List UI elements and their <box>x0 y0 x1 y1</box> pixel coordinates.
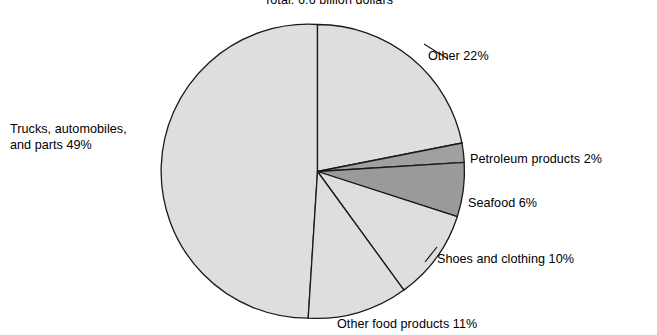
pie-label-other-food-products: Other food products 11% <box>337 317 477 333</box>
pie-label-seafood: Seafood 6% <box>468 196 537 212</box>
pie-slice-trucks-automobiles-and-parts <box>161 24 317 318</box>
pie-label-shoes-and-clothing: Shoes and clothing 10% <box>437 252 574 268</box>
pie-label-trucks-line-2: and parts 49% <box>10 138 190 154</box>
pie-chart-figure: Total: 6.6 billion dollars Other 22% Pet… <box>0 0 657 335</box>
pie-svg <box>0 0 657 335</box>
pie-slices <box>161 24 464 318</box>
pie-label-trucks-automobiles-and-parts: Trucks, automobiles, and parts 49% <box>10 122 190 153</box>
pie-label-petroleum-products: Petroleum products 2% <box>470 152 602 168</box>
pie-label-other: Other 22% <box>428 49 489 65</box>
pie-label-trucks-line-1: Trucks, automobiles, <box>10 122 190 138</box>
